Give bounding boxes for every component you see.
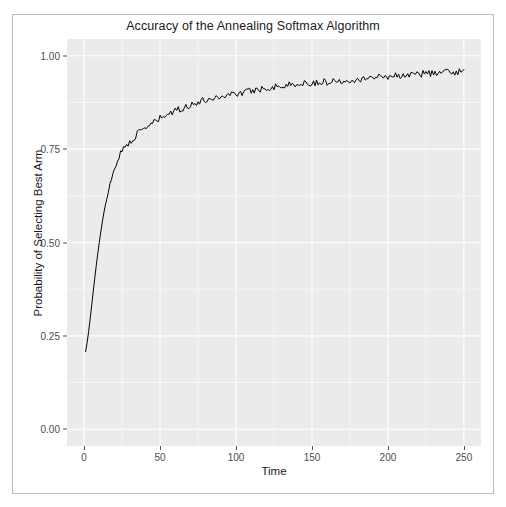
y-tick-mark (63, 55, 67, 56)
x-tick-mark (312, 446, 313, 450)
x-axis-title: Time (67, 465, 481, 477)
x-tick-label: 50 (154, 452, 165, 463)
x-tick-label: 200 (380, 452, 397, 463)
x-tick-mark (160, 446, 161, 450)
y-tick-mark (63, 149, 67, 150)
x-tick-mark (84, 446, 85, 450)
y-tick-mark (63, 335, 67, 336)
chart-plot-area: Accuracy of the Annealing Softmax Algori… (13, 15, 493, 493)
x-tick-label: 250 (456, 452, 473, 463)
x-tick-mark (388, 446, 389, 450)
figure-frame: Accuracy of the Annealing Softmax Algori… (12, 14, 494, 494)
y-tick-mark (63, 242, 67, 243)
x-tick-mark (464, 446, 465, 450)
plot-svg (67, 39, 481, 446)
x-tick-mark (236, 446, 237, 450)
plot-panel (67, 39, 481, 446)
y-tick-mark (63, 429, 67, 430)
x-tick-label: 0 (81, 452, 87, 463)
x-tick-label: 150 (304, 452, 321, 463)
page-title: Accuracy of the Annealing Softmax Algori… (13, 19, 493, 33)
y-axis-title: Probability of Selecting Best Arm (32, 28, 44, 438)
series-line-probability (86, 69, 464, 352)
x-tick-label: 100 (228, 452, 245, 463)
